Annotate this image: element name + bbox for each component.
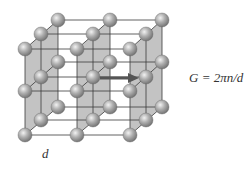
reciprocal-vector-equation: G = 2πn/d xyxy=(189,70,243,86)
atom xyxy=(103,55,117,69)
atom xyxy=(103,13,117,27)
atom xyxy=(155,100,169,114)
atom xyxy=(34,113,48,127)
atom xyxy=(34,27,48,41)
atom xyxy=(139,27,153,41)
atom xyxy=(18,84,32,98)
atom xyxy=(70,84,84,98)
atom xyxy=(18,128,32,142)
atom xyxy=(123,84,137,98)
atom xyxy=(86,70,100,84)
atom xyxy=(139,113,153,127)
atom xyxy=(123,42,137,56)
atom xyxy=(18,42,32,56)
atom xyxy=(103,100,117,114)
atom xyxy=(70,42,84,56)
plane-spacing-label: d xyxy=(42,146,49,162)
atom xyxy=(123,128,137,142)
lattice-atoms xyxy=(18,13,169,142)
atom xyxy=(51,55,65,69)
atom xyxy=(51,13,65,27)
atom xyxy=(34,70,48,84)
atom xyxy=(155,13,169,27)
atom xyxy=(70,128,84,142)
atom xyxy=(86,113,100,127)
atom xyxy=(155,55,169,69)
atom xyxy=(139,70,153,84)
atom xyxy=(51,100,65,114)
atom xyxy=(86,27,100,41)
